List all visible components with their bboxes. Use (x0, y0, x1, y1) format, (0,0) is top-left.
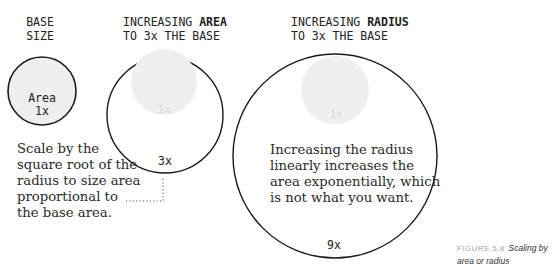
radius-note-line-3: area exponentially, which (270, 174, 441, 189)
area-note-line-3: radius to size area (17, 173, 141, 188)
figure-number: FIGURE 5.8 (457, 244, 505, 253)
radius-9x-label: 9x (327, 238, 341, 252)
radius-note-line-1: Increasing the radius (270, 142, 413, 157)
radius-heading-plain: INCREASING (291, 15, 367, 29)
area-heading-line2: TO 3x THE BASE (123, 29, 220, 43)
radius-heading-line1: INCREASING RADIUS (291, 15, 409, 29)
area-3x-label: 3x (158, 154, 172, 168)
radius-heading-bold: RADIUS (367, 15, 409, 29)
area-heading-line1: INCREASING AREA (123, 15, 227, 29)
area-note-line-1: Scale by the (17, 141, 99, 156)
area-heading-bold: AREA (199, 15, 227, 29)
base-column: BASE SIZE Area 1x (8, 15, 76, 125)
base-heading-line1: BASE (26, 15, 54, 29)
radius-note-line-4: is not what you want. (270, 190, 413, 205)
caption-title-line2: area or radius (457, 256, 510, 266)
base-circle-label-area: Area (28, 91, 56, 105)
radius-heading-line2: TO 3x THE BASE (291, 29, 388, 43)
radius-note-line-2: linearly increases the (270, 158, 414, 173)
area-note-line-2: square root of the (17, 157, 137, 172)
figure-caption: FIGURE 5.8Scaling by area or radius (457, 243, 549, 266)
area-ghost-1x-label: 1x (157, 103, 171, 116)
scaling-diagram: BASE SIZE Area 1x INCREASING AREA TO 3x … (0, 0, 553, 277)
area-note-line-5: the base area. (17, 205, 112, 220)
radius-column: INCREASING RADIUS TO 3x THE BASE 1x Incr… (233, 15, 441, 258)
radius-ghost-1x-label: 1x (329, 108, 343, 121)
caption-title-line1: Scaling by (509, 243, 549, 253)
base-circle-label-multiplier: 1x (35, 104, 49, 118)
caption-line1: FIGURE 5.8Scaling by (457, 243, 549, 253)
base-heading-line2: SIZE (26, 29, 54, 43)
area-heading-plain: INCREASING (123, 15, 199, 29)
area-note-line-4: proportional to (17, 189, 118, 204)
